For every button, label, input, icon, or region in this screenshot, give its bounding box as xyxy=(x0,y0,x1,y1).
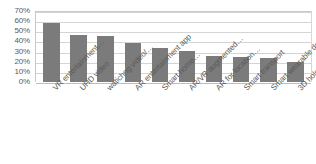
y-tick-label: 70% xyxy=(15,7,30,15)
y-axis: 70%60%50%40%30%20%10%0% xyxy=(0,0,33,164)
bar-chart: 70%60%50%40%30%20%10%0% VR entertainment… xyxy=(0,0,316,164)
y-tick-label: 10% xyxy=(15,68,30,76)
bar-slot xyxy=(38,12,65,82)
y-tick-label: 50% xyxy=(15,27,30,35)
y-tick-label: 0% xyxy=(19,78,30,86)
y-tick-label: 30% xyxy=(15,48,30,56)
y-tick-label: 60% xyxy=(15,17,30,25)
bar[interactable] xyxy=(43,23,60,82)
x-axis: VR entertainment…UHD videowatichng video… xyxy=(35,82,312,164)
y-tick-label: 40% xyxy=(15,37,30,45)
y-tick-label: 20% xyxy=(15,58,30,66)
